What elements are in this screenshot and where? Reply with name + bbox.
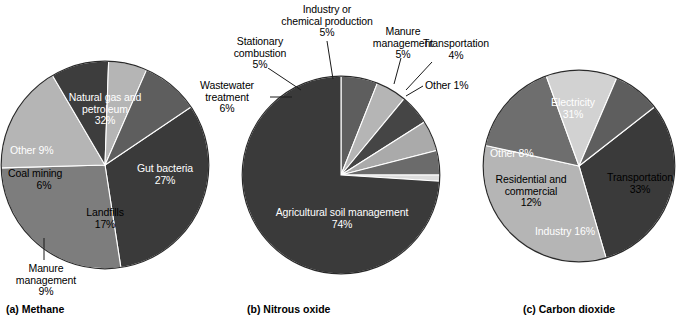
methane-coal-mining-pct: 6% (8, 180, 80, 192)
methane-slice-label-coal-mining: Coal mining 6% (8, 168, 88, 191)
caption-methane: (a) Methane (6, 303, 64, 315)
methane-gut-bacteria-line1: Gut bacteria (125, 163, 205, 175)
methane-slice-label-natural-gas: Natural gas and petroleum 32% (45, 92, 165, 127)
nitrous-slice-label-wastewater: Wastewater treatment 6% (178, 80, 276, 115)
nitrous-wastewater-pct: 6% (178, 103, 276, 115)
nitrous-manure-line1: Manure (348, 26, 458, 38)
carbon-industry-line1: Industry 16% (515, 226, 615, 238)
methane-manure-pct: 9% (0, 286, 92, 298)
methane-landfills-pct: 17% (70, 219, 140, 231)
nitrous-other-leader-line (400, 78, 434, 104)
carbon-electricity-line1: Electricity (528, 97, 618, 109)
nitrous-transportation-pct: 4% (410, 50, 502, 62)
methane-coal-mining-line1: Coal mining (8, 168, 88, 180)
carbon-slice-label-electricity: Electricity 31% (528, 97, 618, 120)
nitrous-transportation-line1: Transportation (410, 38, 502, 50)
carbon-electricity-pct: 31% (528, 109, 618, 121)
methane-gut-bacteria-pct: 27% (125, 175, 205, 187)
methane-manure-line1: Manure (0, 263, 92, 275)
nitrous-agricultural-line1: Agricultural soil management (256, 207, 428, 219)
carbon-slice-label-other: Other 8% (490, 148, 566, 160)
methane-natural-gas-pct: 32% (45, 115, 165, 127)
carbon-transportation-line1: Transportation (590, 172, 683, 184)
carbon-slice-label-residential: Residential and commercial 12% (481, 174, 581, 209)
carbon-other-line1: Other 8% (490, 148, 566, 160)
nitrous-stationary-line1: Stationary (205, 36, 315, 48)
nitrous-industry-line1: Industry or (252, 4, 402, 16)
carbon-slice-label-industry: Industry 16% (515, 226, 615, 238)
carbon-slice-label-transportation: Transportation 33% (590, 172, 683, 195)
methane-other-line1: Other 9% (10, 145, 82, 157)
methane-slice-label-other: Other 9% (10, 145, 82, 157)
nitrous-slice-label-transportation: Transportation 4% (410, 38, 502, 61)
carbon-residential-pct: 12% (481, 197, 581, 209)
nitrous-slice-label-stationary: Stationary combustion 5% (205, 36, 315, 71)
nitrous-slice-label-agricultural: Agricultural soil management 74% (256, 207, 428, 230)
carbon-residential-line1: Residential and (481, 174, 581, 186)
methane-slice-label-manure: Manure management 9% (0, 263, 92, 298)
methane-natural-gas-line1: Natural gas and (45, 92, 165, 104)
three-pie-chart-figure: Natural gas and petroleum 32% Gut bacter… (0, 0, 683, 326)
methane-landfills-line1: Landfills (70, 207, 140, 219)
methane-slice-label-gut-bacteria: Gut bacteria 27% (125, 163, 205, 186)
methane-slice-label-landfills: Landfills 17% (70, 207, 140, 230)
nitrous-wastewater-leader-line (270, 89, 314, 109)
caption-nitrous-oxide: (b) Nitrous oxide (247, 303, 330, 315)
caption-carbon-dioxide: (c) Carbon dioxide (523, 303, 615, 315)
carbon-transportation-pct: 33% (590, 184, 683, 196)
nitrous-wastewater-line1: Wastewater (178, 80, 276, 92)
nitrous-agricultural-pct: 74% (256, 219, 428, 231)
